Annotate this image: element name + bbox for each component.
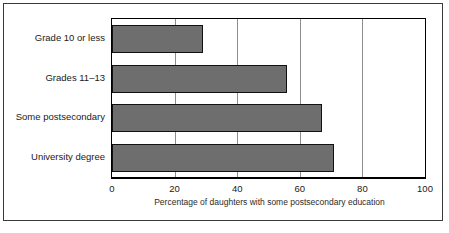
x-axis-tick-labels: 020406080100 — [111, 183, 428, 197]
category-label-0: Grade 10 or less — [4, 24, 105, 52]
bar-2 — [112, 104, 322, 132]
plot-area — [111, 18, 426, 179]
category-label-2: Some postsecondary — [4, 103, 105, 131]
bar-1 — [112, 65, 287, 93]
bar-row — [112, 25, 425, 53]
category-label-3: University degree — [4, 143, 105, 171]
bar-row — [112, 144, 425, 172]
x-tick-label-0: 0 — [109, 183, 114, 194]
figure-frame: Grade 10 or less Grades 11–13 Some posts… — [3, 3, 443, 221]
x-tick-label-20: 20 — [169, 183, 180, 194]
bar-series — [112, 19, 425, 177]
x-tick-label-60: 60 — [295, 183, 306, 194]
bar-row — [112, 104, 425, 132]
x-tick-label-80: 80 — [357, 183, 368, 194]
bar-0 — [112, 25, 203, 53]
x-tick-label-40: 40 — [232, 183, 243, 194]
x-tick-label-100: 100 — [417, 183, 433, 194]
category-axis-labels: Grade 10 or less Grades 11–13 Some posts… — [4, 18, 105, 179]
category-label-1: Grades 11–13 — [4, 64, 105, 92]
x-axis-title: Percentage of daughters with some postse… — [111, 197, 428, 207]
bar-3 — [112, 144, 334, 172]
bar-row — [112, 65, 425, 93]
